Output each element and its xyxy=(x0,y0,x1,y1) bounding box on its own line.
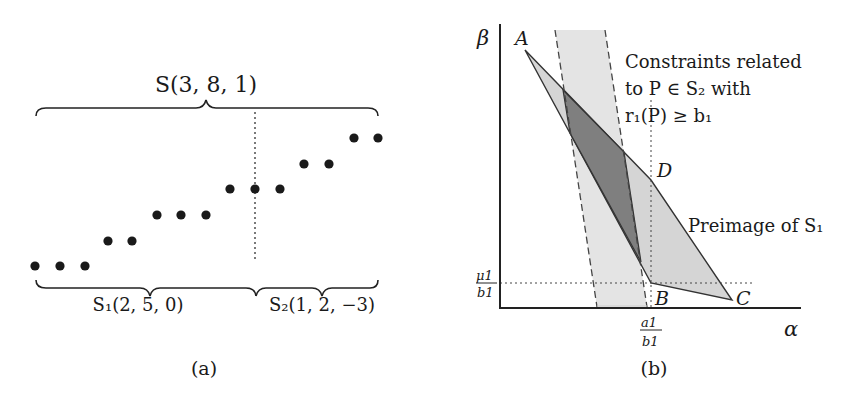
data-point xyxy=(373,133,382,142)
data-point xyxy=(176,210,185,219)
top-brace xyxy=(36,100,378,116)
point-label-c: C xyxy=(736,287,751,309)
data-point xyxy=(324,159,333,168)
bottom-left-brace-label: S₁(2, 5, 0) xyxy=(93,294,184,315)
data-point xyxy=(250,184,259,193)
point-label-b: B xyxy=(654,287,669,309)
annotation-constraints-line3: r₁(P) ≥ b₁ xyxy=(625,105,712,126)
caption-a: (a) xyxy=(191,357,217,379)
panel-b: β α A D B C μ1 b1 a1 b1 Constraints rela… xyxy=(476,24,824,379)
figure: S(3, 8, 1) S₁(2, 5, 0) S₂(1, 2, −3) (a) … xyxy=(0,0,860,418)
data-point xyxy=(55,261,64,270)
x-tick-numerator: a1 xyxy=(641,315,657,330)
top-brace-label: S(3, 8, 1) xyxy=(155,72,257,97)
data-points xyxy=(30,133,382,270)
data-point xyxy=(299,159,308,168)
caption-b: (b) xyxy=(641,357,668,379)
data-point xyxy=(80,261,89,270)
x-axis-label: α xyxy=(784,317,798,341)
data-point xyxy=(103,236,112,245)
point-label-d: D xyxy=(656,159,672,181)
annotation-constraints-line1: Constraints related xyxy=(625,51,802,72)
point-label-a: A xyxy=(513,27,529,49)
x-tick-denominator: b1 xyxy=(642,334,659,349)
data-point xyxy=(225,184,234,193)
data-point xyxy=(201,210,210,219)
annotation-constraints-line2: to P ∈ S₂ with xyxy=(625,78,751,99)
annotation-preimage: Preimage of S₁ xyxy=(688,215,824,236)
panel-a: S(3, 8, 1) S₁(2, 5, 0) S₂(1, 2, −3) (a) xyxy=(30,72,382,379)
data-point xyxy=(30,261,39,270)
y-tick-numerator: μ1 xyxy=(476,268,493,283)
data-point xyxy=(275,184,284,193)
data-point xyxy=(349,133,358,142)
y-tick-denominator: b1 xyxy=(477,285,494,300)
bottom-right-brace-label: S₂(1, 2, −3) xyxy=(269,294,375,315)
y-axis-label: β xyxy=(476,26,489,50)
data-point xyxy=(152,210,161,219)
data-point xyxy=(127,236,136,245)
